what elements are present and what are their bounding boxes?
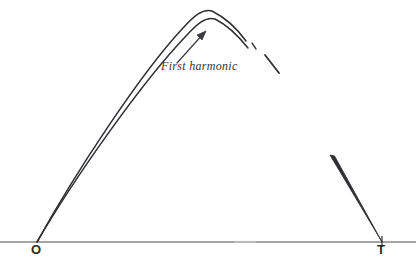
axis-label-origin: O — [31, 243, 41, 256]
axis-label-terminus: T — [377, 243, 385, 256]
arc-break-dash-short — [252, 43, 256, 49]
figure-canvas — [0, 0, 416, 262]
inner-arc-curve — [37, 18, 248, 242]
first-harmonic-label: First harmonic — [161, 60, 238, 73]
harmonic-figure: O T First harmonic — [0, 0, 416, 262]
outer-arc-curve — [37, 10, 246, 242]
arc-break-dash-long — [265, 55, 279, 73]
right-wedge — [330, 155, 382, 242]
